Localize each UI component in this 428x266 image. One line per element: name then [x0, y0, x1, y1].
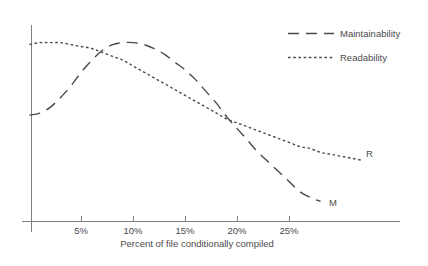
chart-plot-area: 5% 10% 15% 20% 25% Percent of file condi… — [0, 0, 428, 266]
series-end-label-maintainability: M — [329, 197, 337, 208]
legend-label-readability: Readability — [340, 52, 387, 63]
x-tick-label-5: 5% — [74, 225, 88, 236]
x-tick-label-25: 25% — [279, 225, 299, 236]
chart-container: 5% 10% 15% 20% 25% Percent of file condi… — [0, 0, 428, 266]
series-line-maintainability — [29, 42, 320, 201]
series-end-label-readability: R — [366, 148, 373, 159]
x-axis-title: Percent of file conditionally compiled — [120, 238, 274, 249]
x-tick-label-20: 20% — [227, 225, 247, 236]
series-line-readability — [29, 42, 362, 160]
x-tick-label-10: 10% — [123, 225, 143, 236]
legend-label-maintainability: Maintainability — [340, 28, 400, 39]
x-tick-label-15: 15% — [175, 225, 195, 236]
chart-legend: Maintainability Readability — [288, 28, 400, 63]
